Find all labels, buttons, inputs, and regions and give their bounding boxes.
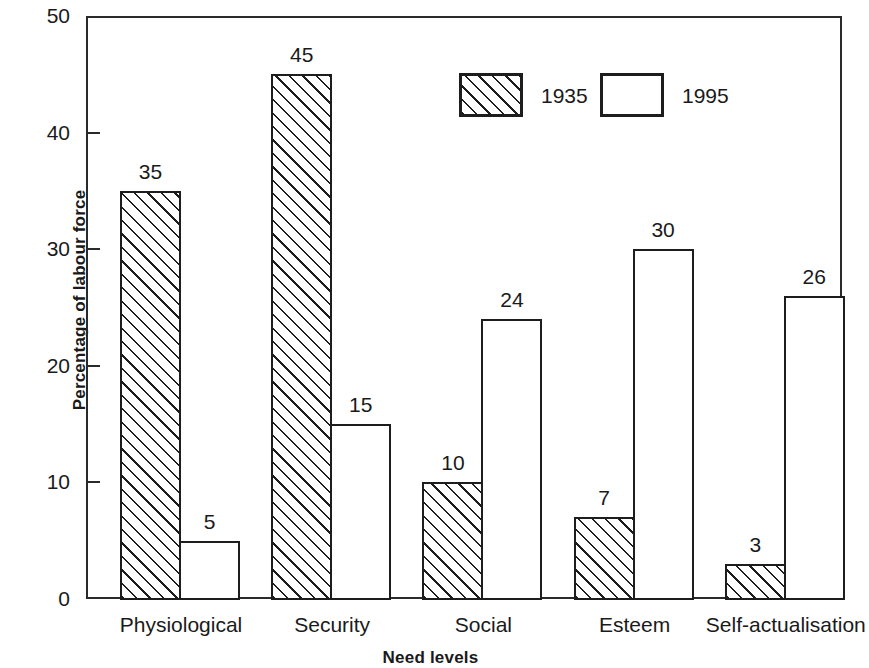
y-axis-tick-label: 20	[14, 355, 70, 376]
legend-item-1935[interactable]: 1935	[459, 72, 588, 118]
y-axis-tick	[86, 481, 100, 483]
y-axis-tick-label: 50	[14, 5, 70, 26]
legend-swatch-1935	[459, 73, 523, 117]
y-axis-tick	[86, 365, 100, 367]
y-axis-tick-label: 10	[14, 471, 70, 492]
legend-item-1995[interactable]: 1995	[600, 72, 729, 118]
y-axis-tick-label: 30	[14, 238, 70, 259]
y-axis-tick-label: 40	[14, 122, 70, 143]
x-axis-category-label: Self-actualisation	[676, 614, 869, 635]
y-axis-tick-label: 0	[14, 588, 70, 609]
x-axis-title: Need levels	[0, 648, 861, 668]
y-axis-tick	[86, 132, 100, 134]
legend-label-1995: 1995	[682, 85, 729, 106]
legend-label-1935: 1935	[541, 85, 588, 106]
y-axis-tick	[86, 248, 100, 250]
legend-swatch-1995	[600, 73, 664, 117]
